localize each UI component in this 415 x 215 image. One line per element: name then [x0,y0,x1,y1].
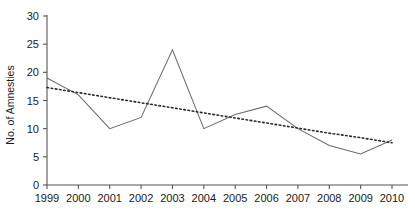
x-tick-label: 2008 [317,192,341,204]
plot-area [47,50,392,154]
y-tick-label: 0 [33,179,39,191]
y-tick-label: 20 [27,66,39,78]
amnesties-line-chart: 051015202530 199920002001200220032004200… [0,0,415,215]
y-axis-group: 051015202530 [27,10,47,191]
x-axis-group: 1999200020012002200320042005200620072008… [35,185,408,204]
x-tick-label: 2010 [380,192,404,204]
x-tick-label: 2005 [223,192,247,204]
series-line-trend [47,88,392,143]
y-tick-label: 30 [27,10,39,22]
series-line-amnesties [47,50,392,154]
x-tick-label: 2002 [129,192,153,204]
x-tick-label: 2007 [286,192,310,204]
x-tick-label: 1999 [35,192,59,204]
x-tick-label: 2006 [254,192,278,204]
y-tick-label: 15 [27,95,39,107]
y-tick-label: 5 [33,151,39,163]
y-axis-tick-labels: 051015202530 [27,10,39,191]
y-axis-ticks [43,16,47,185]
y-axis-title: No. of Amnesties [4,65,16,144]
x-tick-label: 2001 [97,192,121,204]
x-tick-label: 2004 [192,192,216,204]
y-tick-label: 25 [27,38,39,50]
chart-container: 051015202530 199920002001200220032004200… [0,0,415,215]
x-tick-label: 2003 [160,192,184,204]
x-axis-ticks [47,185,392,189]
x-axis-tick-labels: 1999200020012002200320042005200620072008… [35,192,404,204]
x-tick-label: 2000 [66,192,90,204]
y-tick-label: 10 [27,123,39,135]
x-tick-label: 2009 [348,192,372,204]
